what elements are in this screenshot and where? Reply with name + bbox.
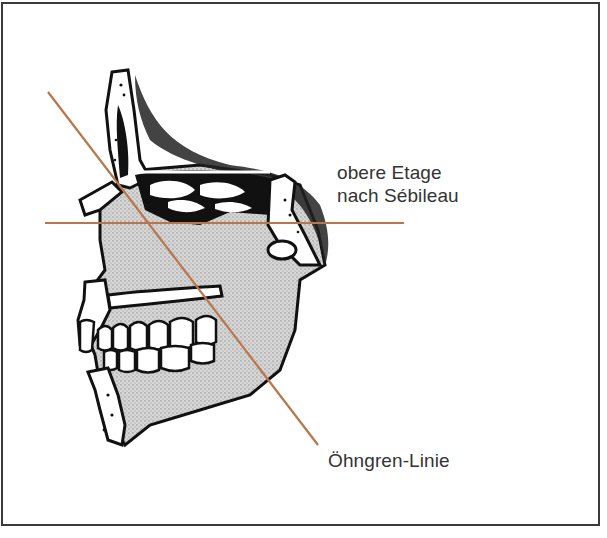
upper-level-label: obere Etage nach Sébileau	[337, 161, 459, 207]
upper-level-label-line1: obere Etage	[337, 161, 459, 184]
nasal-bone	[106, 70, 150, 188]
upper-level-label-line2: nach Sébileau	[337, 184, 459, 207]
ohngren-line-label: Öhngren-Linie	[328, 449, 450, 472]
skull-illustration	[0, 0, 607, 538]
